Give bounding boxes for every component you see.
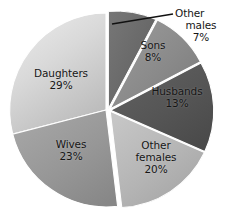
pie-label-daughters-value: 29% [24, 80, 98, 92]
pie-label-other-males: Other males 7% [175, 8, 227, 43]
pie-chart: Daughters 29% Wives 23% Other females 20… [0, 0, 229, 221]
pie-label-sons-value: 8% [132, 52, 174, 64]
pie-label-husbands-value: 13% [144, 98, 210, 110]
pie-label-daughters: Daughters 29% [24, 68, 98, 92]
pie-label-husbands: Husbands 13% [144, 86, 210, 110]
pie-label-other-females-name-line1: Other [141, 139, 170, 151]
pie-label-other-males-value: 7% [175, 32, 227, 44]
pie-label-wives-value: 23% [43, 151, 99, 163]
pie-label-daughters-name: Daughters [34, 67, 88, 79]
pie-label-wives-name: Wives [56, 138, 87, 150]
pie-label-sons: Sons 8% [132, 40, 174, 64]
pie-label-husbands-name: Husbands [151, 85, 202, 97]
pie-label-other-males-name-line1: Other [175, 7, 204, 19]
pie-label-wives: Wives 23% [43, 139, 99, 163]
pie-label-other-females-name-line2: females [126, 152, 186, 164]
pie-label-other-females: Other females 20% [126, 140, 186, 175]
pie-label-other-males-name-line2: males [175, 20, 227, 32]
pie-label-other-females-value: 20% [126, 164, 186, 176]
pie-label-sons-name: Sons [141, 39, 166, 51]
